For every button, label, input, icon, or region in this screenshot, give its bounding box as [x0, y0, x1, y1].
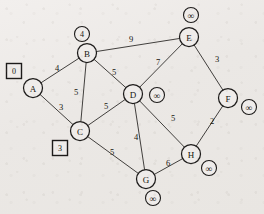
distance-label-h-value: ∞: [206, 164, 213, 174]
edge-weight-d-e: 7: [156, 57, 160, 67]
distance-label-b-value: 4: [80, 30, 84, 39]
graph-diagram: 4355955745326 ABCDEFGH 043∞∞∞∞∞: [0, 0, 264, 214]
graph-node-label-f: F: [225, 94, 230, 104]
graph-node-label-d: D: [130, 90, 137, 100]
graph-edge-a-b: [41, 58, 79, 83]
edge-weight-c-d: 5: [104, 101, 108, 111]
graph-node-label-e: E: [186, 33, 192, 43]
edge-weight-a-c: 3: [59, 102, 63, 112]
graph-edge-f-h: [196, 106, 223, 146]
edge-weight-b-e: 9: [129, 34, 133, 44]
graph-edge-b-d: [94, 59, 126, 87]
edge-weight-b-c: 5: [74, 87, 78, 97]
graph-node-label-c: C: [77, 127, 83, 137]
edge-weight-d-g: 4: [134, 132, 139, 142]
graph-edge-e-f: [194, 45, 223, 90]
graph-node-label-h: H: [188, 150, 195, 160]
distance-label-f-value: ∞: [246, 103, 253, 113]
distance-label-a-value: 0: [12, 67, 16, 76]
edge-weight-g-h: 6: [166, 158, 170, 168]
graph-edge-b-c: [81, 62, 86, 121]
graph-edge-a-c: [40, 94, 73, 124]
edge-weight-d-h: 5: [171, 113, 175, 123]
distance-label-g-value: ∞: [150, 194, 157, 204]
graph-edge-d-h: [140, 101, 185, 147]
graph-node-label-a: A: [30, 84, 37, 94]
edge-weight-c-g: 5: [110, 147, 114, 157]
graph-node-label-g: G: [143, 175, 150, 185]
graph-node-label-b: B: [84, 49, 90, 59]
distance-label-c-value: 3: [58, 144, 62, 153]
graph-edge-d-e: [140, 44, 183, 87]
edge-weight-f-h: 2: [210, 116, 214, 126]
distance-label-e-value: ∞: [188, 11, 195, 21]
graph-canvas: 4355955745326 ABCDEFGH 043∞∞∞∞∞: [0, 0, 264, 214]
graph-edge-b-e: [96, 38, 179, 51]
edge-weight-b-d: 5: [112, 67, 116, 77]
edge-weight-e-f: 3: [215, 54, 219, 64]
distance-label-d-value: ∞: [154, 91, 161, 101]
